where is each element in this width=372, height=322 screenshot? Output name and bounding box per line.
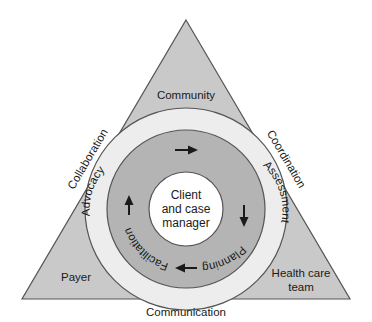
triangle-base-label-communication: Communication (146, 306, 226, 318)
core-label-line3: manager (162, 216, 209, 230)
triangle-corner-label-payer: Payer (61, 271, 91, 283)
core-label-line1: Client (171, 188, 202, 202)
triangle-apex-label-community: Community (157, 89, 215, 101)
diagram-root: Advocacy Assessment Planning Facilitatio… (0, 0, 372, 322)
case-management-diagram: Advocacy Assessment Planning Facilitatio… (0, 0, 372, 322)
triangle-corner-label-health-care-team-line1: Health care (272, 267, 331, 279)
triangle-corner-label-health-care-team-line2: team (288, 281, 314, 293)
core-label-line2: and case (162, 202, 211, 216)
